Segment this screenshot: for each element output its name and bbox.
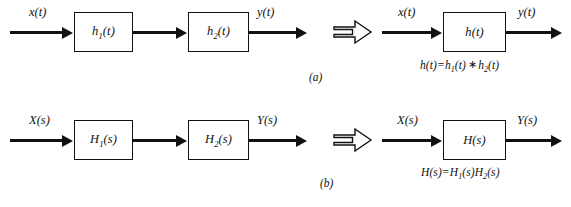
panel-a-left-output-label: y(t) bbox=[257, 5, 274, 20]
panel-a-left-input-arrowhead bbox=[62, 27, 73, 39]
panel-b-right-output-wire bbox=[506, 139, 552, 142]
panel-b-left-middle-arrowhead bbox=[176, 135, 187, 147]
panel-b-left-middle-wire bbox=[133, 139, 177, 142]
panel-b-equation-term1-base: H bbox=[450, 166, 458, 178]
panel-b-equation-term2-base: H bbox=[475, 166, 483, 178]
panel-a-left-output-wire bbox=[249, 31, 297, 34]
panel-b-equation-lhs: H(s) bbox=[421, 166, 442, 178]
panel-b-block-H: H(s) bbox=[443, 120, 506, 160]
panel-b-left-output-label: Y(s) bbox=[257, 113, 277, 128]
panel-b-left-input-wire bbox=[10, 139, 63, 142]
panel-b-equation-term1-arg: (s) bbox=[462, 166, 474, 178]
panel-a-left-input-label: x(t) bbox=[29, 5, 46, 20]
panel-a-block-h2: h2(t) bbox=[188, 12, 249, 52]
panel-a-block-h2-label: h2(t) bbox=[207, 24, 230, 41]
panel-a-block-h1-label: h1(t) bbox=[92, 24, 115, 41]
panel-a-right-input-arrowhead bbox=[431, 27, 442, 39]
panel-a-right-input-wire bbox=[382, 31, 432, 34]
panel-b-right-input-label: X(s) bbox=[397, 113, 418, 128]
panel-a-left-middle-wire bbox=[133, 31, 177, 34]
panel-a-implies-icon bbox=[333, 18, 373, 50]
panel-b-equation-term2-arg: (s) bbox=[487, 166, 499, 178]
panel-b-equation-equals: = bbox=[442, 166, 450, 178]
panel-a-equation-lhs: h(t) bbox=[420, 59, 437, 71]
panel-b-equation: H(s)=H1(s)H2(s) bbox=[421, 166, 500, 181]
panel-b-right-input-arrowhead bbox=[431, 135, 442, 147]
panel-a-left-input-wire bbox=[10, 31, 63, 34]
panel-b-block-H2-label: H2(s) bbox=[205, 132, 232, 149]
panel-b-right-output-label: Y(s) bbox=[517, 113, 537, 128]
panel-b-right-input-wire bbox=[382, 139, 432, 142]
panel-b-implies-icon bbox=[333, 126, 373, 158]
panel-b-left-input-label: X(s) bbox=[29, 113, 50, 128]
panel-b-right-output-arrowhead bbox=[551, 135, 562, 147]
figure-canvas: x(t) h1(t) h2(t) y(t) x(t) h(t) y(t) h(t… bbox=[0, 0, 571, 207]
panel-b-block-H1-label: H1(s) bbox=[90, 132, 117, 149]
panel-b-caption: (b) bbox=[320, 177, 333, 189]
panel-b-block-H1: H1(s) bbox=[74, 120, 133, 160]
panel-a-equation: h(t)=h1(t)∗h2(t) bbox=[420, 59, 499, 74]
panel-a-right-output-arrowhead bbox=[551, 27, 562, 39]
panel-b-block-H-label: H(s) bbox=[463, 133, 486, 148]
panel-a-block-h1: h1(t) bbox=[74, 12, 133, 52]
panel-a-block-h-label: h(t) bbox=[465, 25, 483, 40]
panel-b-left-output-wire bbox=[249, 139, 297, 142]
convolution-operator-icon: ∗ bbox=[466, 58, 478, 70]
panel-a-equation-term1-arg: (t) bbox=[455, 59, 466, 71]
panel-b-left-input-arrowhead bbox=[62, 135, 73, 147]
panel-a-equation-equals: = bbox=[437, 59, 445, 71]
panel-a-caption: (a) bbox=[309, 71, 322, 83]
panel-a-right-output-label: y(t) bbox=[518, 5, 535, 20]
panel-a-block-h: h(t) bbox=[443, 12, 506, 52]
panel-a-right-output-wire bbox=[506, 31, 552, 34]
panel-a-left-output-arrowhead bbox=[296, 27, 307, 39]
panel-a-left-middle-arrowhead bbox=[176, 27, 187, 39]
panel-a-right-input-label: x(t) bbox=[398, 5, 415, 20]
panel-b-left-output-arrowhead bbox=[296, 135, 307, 147]
panel-a-equation-term2-arg: (t) bbox=[488, 59, 499, 71]
panel-b-block-H2: H2(s) bbox=[188, 120, 249, 160]
